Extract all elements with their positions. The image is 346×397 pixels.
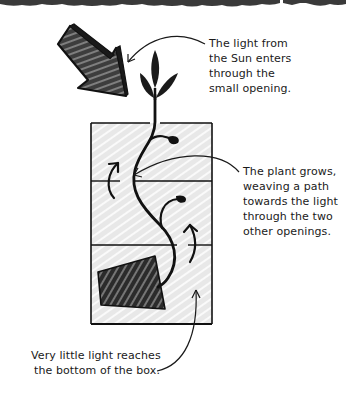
callout-line: other openings. (243, 224, 338, 239)
callout-line: The light from (209, 36, 291, 51)
callout-plant-text: The plant grows, weaving a path towards … (243, 164, 338, 239)
callout-line: small opening. (209, 81, 291, 96)
callout-line: through the two (243, 209, 338, 224)
callout-line: The plant grows, (243, 164, 338, 179)
callout-bottom-text: Very little light reaches the bottom of … (31, 348, 161, 378)
sunlight-arrow-icon (58, 24, 128, 96)
callout-line: Very little light reaches (31, 348, 161, 363)
callout-sun-text: The light from the Sun enters through th… (209, 36, 291, 96)
diagram-canvas: The light from the Sun enters through th… (0, 0, 346, 397)
callout-line: the bottom of the box. (31, 363, 161, 378)
callout-line: the Sun enters (209, 51, 291, 66)
callout-line: through the (209, 66, 291, 81)
callout-arrow-sun (128, 36, 205, 62)
callout-line: weaving a path (243, 179, 338, 194)
torn-paper-edge (0, 0, 346, 7)
callout-line: towards the light (243, 194, 338, 209)
